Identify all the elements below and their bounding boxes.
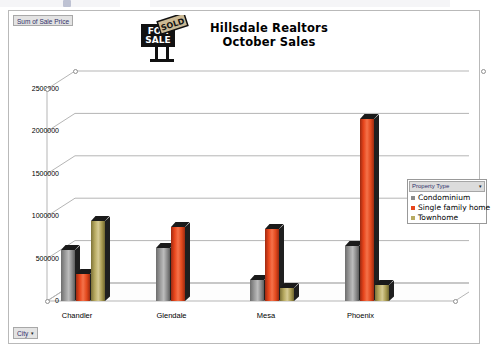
y-axis-tick-label: 0 xyxy=(55,297,59,304)
selection-handle[interactable] xyxy=(45,87,50,92)
bar-mesa-single-family-home[interactable] xyxy=(265,61,279,323)
legend-field-button[interactable]: Property Type ▾ xyxy=(409,181,485,192)
x-axis-tick-label: Chandler xyxy=(47,311,107,320)
bar-chandler-townhome[interactable] xyxy=(91,61,105,323)
legend-item[interactable]: Single family home xyxy=(409,202,485,212)
selection-handle[interactable] xyxy=(453,299,458,304)
bar-mesa-condominium[interactable] xyxy=(250,61,264,323)
chart-title: Hillsdale Realtors October Sales xyxy=(195,21,343,49)
chart-title-block: FOR SALE SOLD Hillsdale Realtors October… xyxy=(133,13,343,65)
bar-face xyxy=(76,274,90,301)
legend-item-label: Single family home xyxy=(418,203,490,212)
bar-face xyxy=(345,246,359,301)
bar-side xyxy=(105,217,110,301)
pivot-chart-object[interactable]: Sum of Sale Price FOR SALE SOLD Hillsdal… xyxy=(8,10,480,344)
bar-face xyxy=(61,250,75,301)
legend-item-label: Condominium xyxy=(418,193,470,202)
x-axis-tick-label: Mesa xyxy=(236,311,296,320)
legend[interactable]: Property Type ▾ CondominiumSingle family… xyxy=(407,179,487,224)
toolbar-ghost-left xyxy=(0,0,120,7)
screenshot-root: Sum of Sale Price FOR SALE SOLD Hillsdal… xyxy=(0,0,491,357)
bar-phoenix-single-family-home[interactable] xyxy=(360,61,374,323)
bar-chandler-single-family-home[interactable] xyxy=(76,61,90,323)
chart-title-line2: October Sales xyxy=(195,35,343,49)
legend-item[interactable]: Condominium xyxy=(409,192,485,202)
legend-items: CondominiumSingle family homeTownhome xyxy=(409,192,485,222)
bar-mesa-townhome[interactable] xyxy=(280,61,294,323)
x-axis-tick-label: Glendale xyxy=(142,311,202,320)
bar-face xyxy=(250,280,264,301)
bar-face xyxy=(156,248,170,301)
legend-swatch xyxy=(411,206,415,210)
legend-item[interactable]: Townhome xyxy=(409,212,485,222)
bar-chandler-condominium[interactable] xyxy=(61,61,75,323)
svg-text:SALE: SALE xyxy=(145,35,170,45)
y-axis-tick-label: 1500000 xyxy=(32,170,59,177)
bar-face xyxy=(91,221,105,301)
bar-face xyxy=(280,288,294,301)
for-sale-sign-icon: FOR SALE SOLD xyxy=(133,15,191,63)
category-field-label: City xyxy=(17,328,28,339)
bar-face xyxy=(265,229,279,301)
selection-handle[interactable] xyxy=(481,69,486,74)
plot-area: 05000001000000150000020000002500000 Chan… xyxy=(29,61,469,323)
value-field-button[interactable]: Sum of Sale Price xyxy=(13,15,73,26)
legend-item-label: Townhome xyxy=(418,213,458,222)
chevron-down-icon: ▾ xyxy=(31,328,34,339)
category-field-button[interactable]: City ▾ xyxy=(13,327,38,339)
application-toolbar-strip xyxy=(0,0,491,9)
legend-swatch xyxy=(411,216,415,220)
y-axis-tick-label: 500000 xyxy=(36,255,59,262)
x-axis-tick-label: Phoenix xyxy=(331,311,391,320)
bar-glendale-single-family-home[interactable] xyxy=(171,61,185,323)
selection-handle[interactable] xyxy=(45,299,50,304)
legend-field-label: Property Type xyxy=(412,182,449,191)
legend-swatch xyxy=(411,196,415,200)
bar-glendale-condominium[interactable] xyxy=(156,61,170,323)
selection-handle[interactable] xyxy=(73,69,78,74)
chart-title-line1: Hillsdale Realtors xyxy=(195,21,343,35)
y-axis-tick-label: 1000000 xyxy=(32,212,59,219)
toolbar-ghost-right xyxy=(150,0,450,7)
bar-face xyxy=(171,227,185,301)
value-field-label: Sum of Sale Price xyxy=(17,18,69,25)
bar-side xyxy=(185,223,190,301)
chevron-down-icon: ▾ xyxy=(479,182,482,191)
bar-face xyxy=(375,285,389,301)
y-axis-labels: 05000001000000150000020000002500000 xyxy=(13,61,59,323)
bar-face xyxy=(360,119,374,301)
toolbar-icon[interactable] xyxy=(63,0,71,7)
y-axis-tick-label: 2000000 xyxy=(32,127,59,134)
bar-phoenix-condominium[interactable] xyxy=(345,61,359,323)
bar-phoenix-townhome[interactable] xyxy=(375,61,389,323)
